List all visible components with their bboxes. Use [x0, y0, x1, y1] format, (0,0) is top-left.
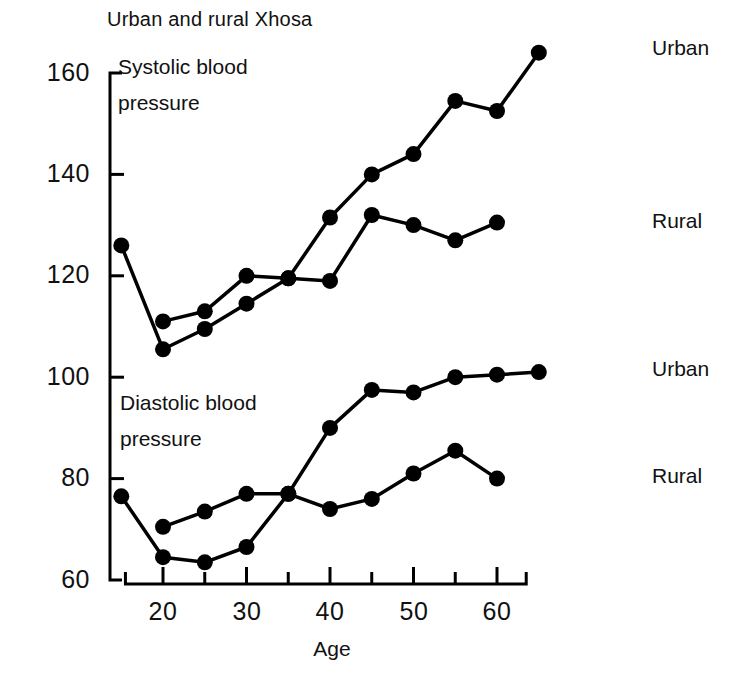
- series-label-diastolic-urban: Urban: [652, 357, 709, 381]
- x-axis-title: Age: [292, 637, 372, 661]
- data-point-marker: [447, 369, 463, 385]
- data-point-marker: [197, 321, 213, 337]
- data-point-marker: [447, 93, 463, 109]
- series-diastolic-rural: [155, 443, 505, 535]
- axes: [110, 73, 526, 584]
- data-point-marker: [113, 488, 129, 504]
- y-tick-label-100: 100: [18, 362, 90, 391]
- series-line: [163, 215, 497, 321]
- data-point-marker: [239, 268, 255, 284]
- x-axis-spine: [125, 572, 526, 584]
- y-tick-label-60: 60: [18, 565, 90, 594]
- data-point-marker: [489, 367, 505, 383]
- chart-figure: Urban and rural Xhosa 160 140 120 100 80…: [0, 0, 742, 688]
- data-point-marker: [364, 382, 380, 398]
- data-point-marker: [197, 554, 213, 570]
- series-label-diastolic-rural: Rural: [652, 464, 702, 488]
- data-point-marker: [406, 466, 422, 482]
- x-tick-label-60: 60: [477, 597, 517, 626]
- data-series-layer: [113, 45, 547, 571]
- data-point-marker: [406, 217, 422, 233]
- data-point-marker: [155, 549, 171, 565]
- data-point-marker: [155, 313, 171, 329]
- series-label-systolic-urban: Urban: [652, 36, 709, 60]
- y-tick-label-120: 120: [18, 260, 90, 289]
- annotation-systolic-line2: pressure: [118, 88, 200, 118]
- series-label-systolic-rural: Rural: [652, 209, 702, 233]
- data-point-marker: [113, 237, 129, 253]
- x-tick-label-40: 40: [310, 597, 350, 626]
- data-point-marker: [489, 471, 505, 487]
- data-point-marker: [531, 45, 547, 61]
- x-tick-label-30: 30: [227, 597, 267, 626]
- data-point-marker: [447, 232, 463, 248]
- data-point-marker: [531, 364, 547, 380]
- annotation-diastolic-line2: pressure: [120, 424, 202, 454]
- data-point-marker: [406, 384, 422, 400]
- y-tick-label-80: 80: [18, 463, 90, 492]
- annotation-systolic-line1: Systolic blood: [118, 52, 248, 82]
- data-point-marker: [280, 270, 296, 286]
- data-point-marker: [197, 303, 213, 319]
- data-point-marker: [322, 273, 338, 289]
- data-point-marker: [364, 491, 380, 507]
- chart-plot-area: [0, 0, 742, 688]
- data-point-marker: [364, 166, 380, 182]
- data-point-marker: [280, 486, 296, 502]
- data-point-marker: [364, 207, 380, 223]
- data-point-marker: [239, 296, 255, 312]
- data-point-marker: [447, 443, 463, 459]
- data-point-marker: [155, 341, 171, 357]
- x-tick-label-50: 50: [394, 597, 434, 626]
- data-point-marker: [155, 519, 171, 535]
- x-tick-label-20: 20: [143, 597, 183, 626]
- data-point-marker: [322, 501, 338, 517]
- data-point-marker: [489, 103, 505, 119]
- data-point-marker: [489, 215, 505, 231]
- y-tick-label-160: 160: [18, 58, 90, 87]
- data-point-marker: [322, 420, 338, 436]
- data-point-marker: [322, 210, 338, 226]
- data-point-marker: [239, 539, 255, 555]
- data-point-marker: [239, 486, 255, 502]
- data-point-marker: [197, 504, 213, 520]
- data-point-marker: [406, 146, 422, 162]
- annotation-diastolic-line1: Diastolic blood: [120, 388, 257, 418]
- y-tick-label-140: 140: [18, 159, 90, 188]
